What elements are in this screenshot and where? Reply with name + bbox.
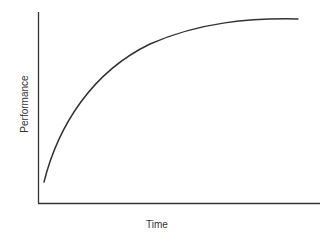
performance-curve xyxy=(44,19,298,182)
y-axis-label: Performance xyxy=(19,75,30,132)
performance-time-chart xyxy=(0,0,335,242)
x-axis-label: Time xyxy=(146,219,168,230)
